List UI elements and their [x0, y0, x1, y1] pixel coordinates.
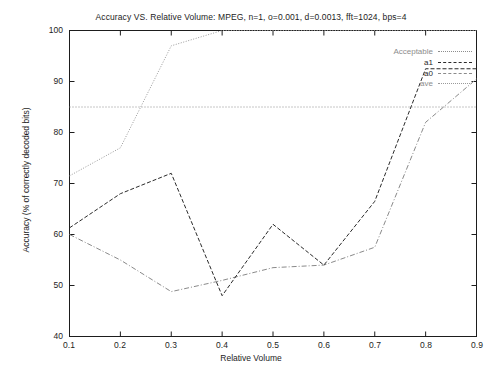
legend-key-acceptable: [438, 51, 472, 53]
chart-figure: Accuracy VS. Relative Volume: MPEG, n=1,…: [0, 0, 502, 378]
series-line-a0: [70, 79, 477, 292]
series-line-a1: [70, 69, 477, 296]
legend-label-a0: a0: [424, 69, 438, 78]
legend-entry-a1: a1: [300, 57, 472, 68]
legend-label-a1: a1: [424, 58, 438, 67]
legend-entry-acceptable: Acceptable: [300, 46, 472, 57]
legend-key-ave: [438, 83, 472, 85]
legend-label-acceptable: Acceptable: [393, 47, 438, 56]
legend-label-ave: ave: [420, 79, 438, 88]
legend-key-a0: [438, 73, 472, 75]
legend-key-a1: [438, 62, 472, 64]
legend-entry-ave: ave: [300, 78, 472, 89]
